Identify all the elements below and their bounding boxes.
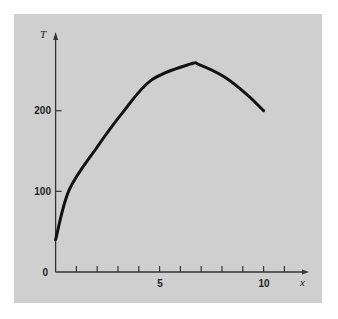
x-axis-arrow-icon <box>302 270 309 275</box>
y-axis-label: T <box>40 28 47 40</box>
x-tick-label-5: 5 <box>157 278 163 289</box>
y-axis-arrow-icon <box>53 32 58 40</box>
x-tick-label-10: 10 <box>258 278 270 289</box>
y-tick-label-200: 200 <box>34 105 51 116</box>
data-line-T <box>56 62 264 239</box>
x-axis-label: x <box>299 276 305 288</box>
line-chart: T x 0 100 200 5 10 <box>0 0 338 319</box>
y-tick-label-100: 100 <box>34 186 51 197</box>
y-tick-label-0: 0 <box>42 267 48 278</box>
